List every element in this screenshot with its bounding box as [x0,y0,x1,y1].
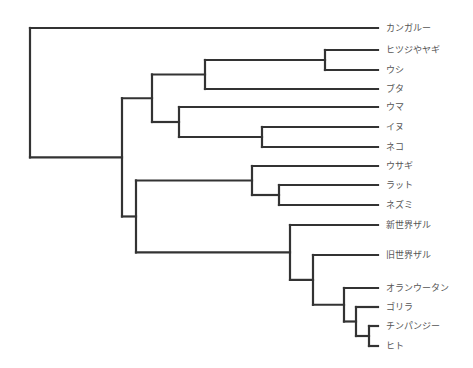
leaf-label-gorilla: ゴリラ [386,301,413,313]
leaf-label-dog: イヌ [386,121,404,133]
leaf-label-human: ヒト [386,340,404,352]
leaf-label-horse: ウマ [386,101,404,113]
leaf-label-old-world-monkey: 旧世界ザル [386,249,431,261]
leaf-label-cat: ネコ [386,141,404,153]
leaf-label-chimpanzee: チンパンジー [386,320,440,332]
leaf-label-cow: ウシ [386,64,404,76]
leaf-label-new-world-monkey: 新世界ザル [386,219,431,231]
leaf-label-pig: ブタ [386,83,404,95]
leaf-label-mouse: ネズミ [386,199,413,211]
leaf-label-kangaroo: カンガルー [386,22,431,34]
leaf-label-orangutan: オランウータン [386,282,449,294]
leaf-label-sheep-goat: ヒツジやヤギ [386,44,440,56]
leaf-label-rabbit: ウサギ [386,160,413,172]
leaf-label-rat: ラット [386,179,413,191]
